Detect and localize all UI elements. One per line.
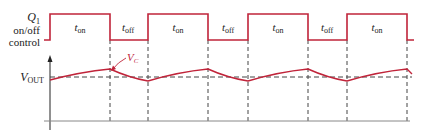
q1-control-label: control: [9, 36, 40, 48]
interval-label-ton-4: ton: [371, 21, 382, 35]
interval-label-toff-2: toff: [222, 21, 235, 35]
timing-diagram: Q1 on/off control VOUT VC ton toff ton t…: [0, 0, 426, 135]
y-axis-arrow-icon: [48, 55, 53, 62]
interval-label-ton-2: ton: [172, 21, 183, 35]
interval-label-toff-1: toff: [122, 21, 135, 35]
vout-label: VOUT: [20, 70, 44, 85]
transition-guides: [110, 40, 407, 121]
interval-labels: ton toff ton toff ton toff ton: [74, 21, 382, 35]
vc-label: VC: [127, 51, 139, 65]
interval-label-ton-3: ton: [272, 21, 283, 35]
interval-label-toff-3: toff: [321, 21, 334, 35]
q1-on-off-label: on/off: [13, 24, 40, 36]
vc-waveform: [50, 69, 412, 81]
interval-label-ton-1: ton: [74, 21, 85, 35]
